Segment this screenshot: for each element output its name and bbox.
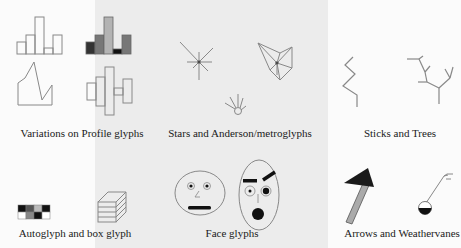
profile-glyph-polyline xyxy=(18,62,52,105)
caption-autoglyph-box: Autoglyph and box glyph xyxy=(19,227,132,239)
caption-face-glyphs: Face glyphs xyxy=(206,227,259,239)
caption-sticks-trees: Sticks and Trees xyxy=(364,127,436,139)
face-glyph-oval xyxy=(239,160,279,230)
caption-stars-metroglyphs: Stars and Anderson/metroglyphs xyxy=(168,127,312,139)
caption-arrows-weathervanes: Arrows and Weathervanes xyxy=(344,227,460,239)
arrow-glyph xyxy=(344,168,374,224)
star-polygon-glyph xyxy=(258,43,292,80)
weathervane-glyph xyxy=(419,174,454,215)
autoglyph-grid xyxy=(18,205,50,219)
metroglyph xyxy=(225,94,246,115)
stick-figure-glyph xyxy=(343,57,357,107)
profile-glyph-outline-bars xyxy=(17,17,62,54)
profile-glyph-symmetric-bars xyxy=(87,67,132,115)
profile-glyph-shaded-bars xyxy=(86,17,131,54)
glyph-illustrations xyxy=(0,0,461,248)
tree-glyph xyxy=(407,56,453,104)
caption-profile-glyphs: Variations on Profile glyphs xyxy=(20,127,143,139)
star-glyph xyxy=(180,42,213,80)
box-glyph xyxy=(98,192,126,222)
face-glyph-round xyxy=(175,171,225,215)
